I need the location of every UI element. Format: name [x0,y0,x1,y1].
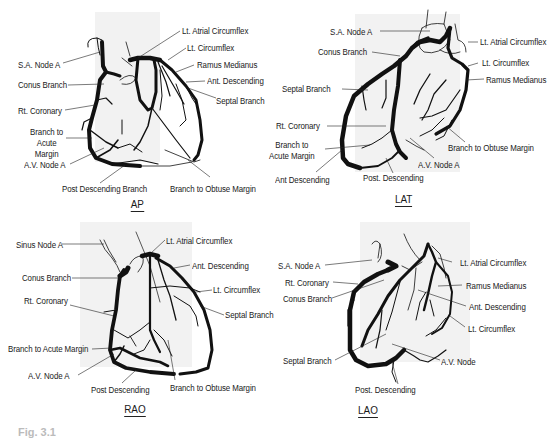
lat-label-septal-branch: Septal Branch [282,84,331,95]
lao-label-post-descending: Post. Descending [355,385,416,396]
lat-view-label: LAT [395,193,412,207]
rao-label-branch-acute-margin: Branch to Acute Margin [8,344,88,355]
lao-label-lt-circumflex: Lt. Circumflex [468,324,515,335]
rao-view-label: RAO [124,403,145,417]
ap-label-branch-obtuse-margin: Branch to Obtuse Margin [170,184,256,195]
lao-label-conus-branch: Conus Branch [283,294,332,305]
lat-label-lt-circumflex: Lt. Circumflex [482,58,529,69]
ap-label-av-node: A.V. Node A [24,160,65,171]
lat-label-rt-coronary: Rt. Coronary [276,121,320,132]
lao-label-av-node: A.V. Node [441,357,476,368]
lat-label-ramus-medianus: Ramus Medianus [486,75,546,86]
rao-label-ant-descending: Ant. Descending [192,261,249,272]
rao-label-septal-branch: Septal Branch [225,310,274,321]
lao-label-septal-branch: Septal Branch [283,356,332,367]
lao-label-lt-atrial-circumflex: Lt. Atrial Circumflex [460,258,526,269]
ap-label-lt-atrial-circumflex: Lt. Atrial Circumflex [182,26,248,37]
figure-caption: Fig. 3.1 [18,426,56,438]
ap-label-septal-branch: Septal Branch [216,96,265,107]
rao-label-rt-coronary: Rt. Coronary [24,296,68,307]
ap-label-ant-descending: Ant. Descending [207,76,264,87]
lat-label-sa-node: S.A. Node A [330,27,372,38]
lao-label-ramus-medianus: Ramus Medianus [466,281,526,292]
lat-label-post-descending: Post. Descending [363,173,424,184]
rao-label-post-descending: Post Descending [91,385,149,396]
lao-view-label: LAO [358,404,378,418]
ap-label-post-descending: Post Descending Branch [62,184,147,195]
rao-label-lt-atrial-circumflex: Lt. Atrial Circumflex [166,236,232,247]
rao-label-sinus-node: Sinus Node A [16,240,63,251]
lat-label-ant-descending: Ant Descending [275,175,330,186]
lao-label-sa-node: S.A. Node A [278,261,320,272]
ap-label-sa-node: S.A. Node A [18,60,60,71]
ap-label-ramus-medianus: Ramus Medianus [197,60,257,71]
ap-label-branch-acute-margin: Branch to Acute Margin [26,127,67,160]
ap-label-rt-coronary: Rt. Coronary [18,106,62,117]
lat-label-branch-obtuse-margin: Branch to Obtuse Margin [448,143,534,154]
rao-label-conus-branch: Conus Branch [22,273,71,284]
lat-label-conus-branch: Conus Branch [318,47,367,58]
rao-label-branch-obtuse-margin: Branch to Obtuse Margin [170,383,256,394]
ap-label-conus-branch: Conus Branch [18,80,67,91]
lat-label-av-node: A.V. Node A [418,160,459,171]
rao-label-av-node: A.V. Node A [28,371,69,382]
ap-label-lt-circumflex: Lt. Circumflex [187,43,234,54]
lat-label-lt-atrial-circumflex: Lt. Atrial Circumflex [480,37,546,48]
ap-view-label: AP [131,198,144,212]
lao-label-rt-coronary: Rt. Coronary [285,278,329,289]
lat-label-branch-acute-margin: Branch to Acute Margin [266,140,318,162]
lao-label-ant-descending: Ant. Descending [469,302,526,313]
rao-label-lt-circumflex: Lt. Circumflex [213,285,260,296]
